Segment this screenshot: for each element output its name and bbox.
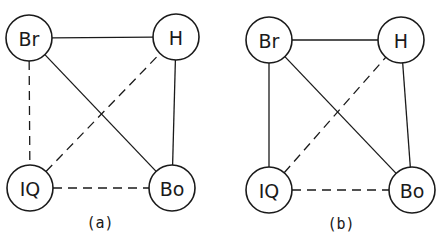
node-h: H — [153, 14, 199, 60]
edge-br-bo-solid — [285, 57, 396, 174]
edge-iq-h-dashed — [284, 57, 386, 172]
edge-iq-h-dashed — [46, 54, 160, 172]
node-br: Br — [246, 17, 292, 63]
graph-diagram-canvas: BrHIQBoBrHIQBo (a)(b) — [0, 0, 444, 238]
node-br: Br — [6, 15, 52, 61]
edge-h-bo-solid — [403, 63, 411, 167]
node-label: Br — [259, 30, 280, 52]
node-label: H — [169, 27, 183, 49]
node-iq: IQ — [7, 165, 53, 211]
node-bo: Bo — [389, 167, 435, 213]
edge-h-bo-solid — [173, 60, 176, 165]
captions-layer: (a)(b) — [86, 214, 354, 233]
node-iq: IQ — [246, 167, 292, 213]
node-label: H — [394, 30, 408, 52]
node-label: Bo — [400, 180, 425, 202]
diagram-caption: (b) — [327, 215, 354, 233]
node-label: Bo — [160, 178, 185, 200]
diagram-caption: (a) — [86, 214, 113, 232]
edge-br-h-solid — [52, 37, 153, 38]
nodes-layer: BrHIQBoBrHIQBo — [6, 14, 435, 213]
edges-layer — [29, 37, 410, 190]
node-h: H — [378, 17, 424, 63]
node-bo: Bo — [149, 165, 195, 211]
node-label: IQ — [259, 180, 280, 202]
edge-br-bo-solid — [45, 55, 156, 172]
node-label: Br — [19, 28, 40, 50]
node-label: IQ — [20, 178, 41, 200]
edge-br-iq-dashed — [29, 61, 30, 165]
